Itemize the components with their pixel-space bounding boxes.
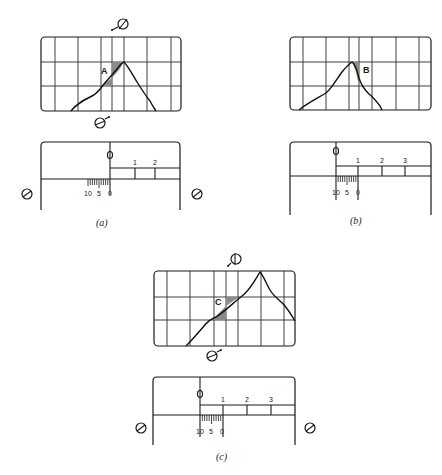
display-screen-c: C <box>154 271 295 346</box>
scale-label: 1 <box>133 159 137 166</box>
svg-text:10: 10 <box>332 189 340 196</box>
scale-label: 1 <box>356 157 360 164</box>
vernier-a <box>88 179 108 188</box>
svg-text:5: 5 <box>209 428 213 435</box>
svg-text:0: 0 <box>220 428 224 435</box>
bottom-knob-icon <box>95 116 110 128</box>
scale-label: 2 <box>153 159 157 166</box>
region-label-b: B <box>363 65 370 75</box>
caption-b: (b) <box>350 215 362 227</box>
right-knob-icon[interactable] <box>305 423 315 433</box>
scale-plate-b: 1 2 3 10 5 0 <box>290 142 431 215</box>
panel-a: A 1 2 <box>22 19 202 229</box>
spectrum-curve-c <box>186 272 295 346</box>
scale-label: 2 <box>245 396 249 403</box>
scale-plate-a: 1 2 10 5 0 <box>41 142 180 210</box>
panel-c: C 1 2 3 <box>136 253 315 463</box>
svg-text:10: 10 <box>196 428 204 435</box>
right-knob-icon[interactable] <box>192 189 202 199</box>
bottom-knob-icon <box>207 349 222 361</box>
svg-text:10: 10 <box>84 190 92 197</box>
scale-label: 3 <box>269 396 273 403</box>
svg-text:5: 5 <box>97 190 101 197</box>
svg-text:0: 0 <box>356 189 360 196</box>
left-knob-icon[interactable] <box>22 189 32 199</box>
display-screen-a: A <box>41 37 181 111</box>
display-screen-b: B <box>290 37 431 110</box>
svg-text:5: 5 <box>345 189 349 196</box>
scale-plate-c: 1 2 3 10 5 0 <box>153 377 295 445</box>
left-knob-icon[interactable] <box>136 423 146 433</box>
scale-label: 2 <box>380 157 384 164</box>
shaded-region-a <box>112 62 124 78</box>
caption-a: (a) <box>96 217 108 229</box>
svg-text:0: 0 <box>108 190 112 197</box>
top-knob-icon <box>227 253 241 267</box>
region-label-a: A <box>101 66 108 76</box>
vernier-c <box>202 415 220 424</box>
diagram-canvas: A 1 2 <box>0 0 442 475</box>
scale-label: 3 <box>403 157 407 164</box>
region-label-c: C <box>215 297 222 307</box>
top-knob-icon <box>111 19 128 31</box>
scale-label: 1 <box>221 396 225 403</box>
vernier-b <box>338 176 356 185</box>
caption-c: (c) <box>216 451 228 463</box>
panel-b: B 1 2 3 10 <box>290 37 431 227</box>
